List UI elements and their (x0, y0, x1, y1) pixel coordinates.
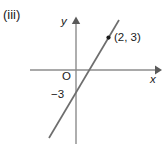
x-axis-arrow-icon (155, 66, 162, 75)
y-intercept-label: −3 (51, 89, 64, 101)
x-axis-label: x (150, 74, 156, 86)
point-marker-2-3 (106, 36, 110, 40)
point-coordinate-label: (2, 3) (114, 32, 141, 44)
coordinate-graph (0, 0, 167, 154)
y-axis-arrow-icon (72, 17, 80, 25)
y-axis-label: y (61, 16, 67, 28)
figure-container: (iii) y x O −3 (2, 3) (0, 0, 167, 154)
origin-label: O (62, 71, 71, 83)
